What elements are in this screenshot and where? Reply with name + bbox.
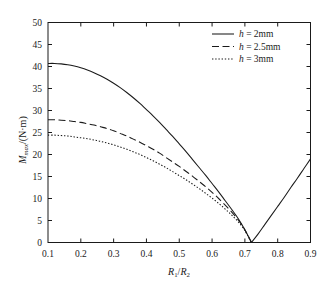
y-tick-label: 20 [33, 150, 43, 160]
chart-plot: 05101520253035404550 0.10.20.30.40.50.60… [0, 0, 334, 288]
y-tick-label: 15 [33, 172, 43, 182]
x-tick-label: 0.4 [141, 249, 153, 259]
legend-label-2: h = 2.5mm [239, 42, 281, 52]
y-tick-label: 10 [33, 194, 43, 204]
legend-label-1: h = 2mm [239, 29, 274, 39]
y-tick-label: 35 [33, 84, 43, 94]
x-tick-label: 0.9 [305, 249, 317, 259]
x-tick-label: 0.7 [239, 249, 251, 259]
y-axis-title: Mmax/(N·m) [17, 116, 29, 164]
y-tick-label: 0 [37, 238, 42, 248]
y-tick-label: 45 [33, 40, 43, 50]
x-tick-label: 0.6 [206, 249, 218, 259]
y-tick-label: 50 [33, 18, 43, 28]
x-tick-label: 0.2 [75, 249, 87, 259]
chart-background [0, 0, 334, 288]
x-tick-label: 0.8 [272, 249, 284, 259]
y-tick-label: 5 [37, 216, 42, 226]
x-axis-tick-labels: 0.10.20.30.40.50.60.70.80.9 [42, 249, 317, 259]
y-tick-label: 40 [33, 62, 43, 72]
x-tick-label: 0.5 [173, 249, 185, 259]
svg-text:Mmax/(N·m): Mmax/(N·m) [17, 116, 29, 164]
legend-label-3: h = 3mm [239, 54, 274, 64]
y-tick-label: 30 [33, 106, 43, 116]
x-tick-label: 0.3 [108, 249, 120, 259]
chart-figure: 05101520253035404550 0.10.20.30.40.50.60… [0, 0, 334, 288]
y-tick-label: 25 [33, 128, 43, 138]
x-tick-label: 0.1 [42, 249, 54, 259]
